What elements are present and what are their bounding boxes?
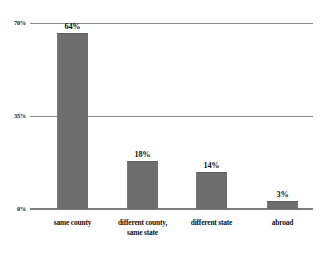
plot-area: 70% 35% 0% 64% same county 18% different… <box>0 0 334 253</box>
bar-value-label: 64% <box>49 21 96 31</box>
y-tick-label-70: 70% <box>3 19 26 27</box>
category-label-line1: different county, <box>107 218 179 228</box>
bar-different-state[interactable] <box>196 172 227 209</box>
category-label-different-county-same-state: different county, same state <box>107 218 179 238</box>
bar-value-label: 3% <box>259 189 306 199</box>
category-label-line2: same state <box>107 228 179 238</box>
category-label-line1: same county <box>44 218 101 228</box>
category-label-line1: different state <box>181 218 241 228</box>
bar-different-county-same-state[interactable] <box>127 161 158 209</box>
bar-value-label: 14% <box>188 160 235 170</box>
category-label-line1: abroad <box>254 218 311 228</box>
y-tick-label-35: 35% <box>3 112 26 120</box>
category-label-abroad: abroad <box>254 218 311 228</box>
bar-abroad[interactable] <box>267 201 298 209</box>
bar-chart: 70% 35% 0% 64% same county 18% different… <box>0 0 334 253</box>
category-label-different-state: different state <box>181 218 241 228</box>
bar-value-label: 18% <box>119 149 166 159</box>
category-label-same-county: same county <box>44 218 101 228</box>
bar-same-county[interactable] <box>57 33 88 209</box>
y-tick-label-0: 0% <box>3 205 26 213</box>
